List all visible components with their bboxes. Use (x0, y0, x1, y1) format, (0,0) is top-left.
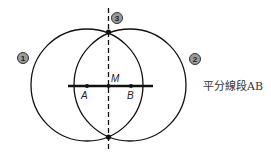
svg-text:2: 2 (193, 55, 198, 64)
label-a: A (80, 90, 88, 101)
step-badge-1: 1 (18, 53, 29, 64)
point-m (107, 84, 111, 88)
point-b (129, 84, 133, 88)
label-m: M (111, 73, 120, 84)
svg-text:1: 1 (21, 54, 26, 63)
perpendicular-bisector-diagram: A B M 1 2 3 平分線段AB (0, 0, 271, 161)
label-b: B (127, 90, 134, 101)
point-a (85, 84, 89, 88)
step-badge-3: 3 (112, 13, 123, 24)
step-badge-2: 2 (190, 54, 201, 65)
intersection-bottom (106, 134, 111, 139)
svg-text:3: 3 (115, 14, 120, 23)
caption-bisect-segment: 平分線段AB (203, 77, 263, 93)
intersection-top (106, 29, 111, 34)
